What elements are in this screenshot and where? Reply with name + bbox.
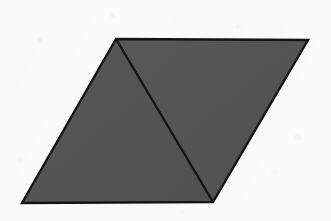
geometric-figure [0, 0, 331, 221]
figure-page [0, 0, 331, 221]
